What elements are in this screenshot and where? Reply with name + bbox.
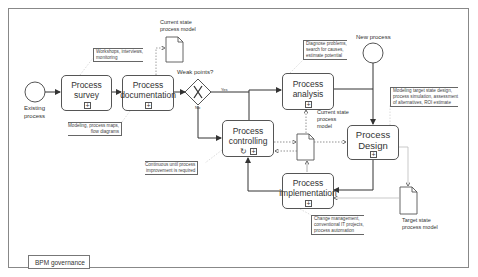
task-process-design[interactable]: Process Design + bbox=[347, 125, 399, 160]
task-label: Process implementation bbox=[279, 178, 337, 198]
document-target-state-icon[interactable] bbox=[400, 187, 417, 214]
annot-connector-survey bbox=[80, 58, 93, 75]
task-process-documentation[interactable]: Process documentation + bbox=[122, 75, 174, 111]
task-label: Process analysis bbox=[293, 79, 324, 99]
annot-connector-analysis bbox=[290, 60, 303, 73]
assoc-design-to-target-doc bbox=[399, 147, 408, 186]
start-event-label: Existing process bbox=[24, 104, 45, 120]
start-event-new-process[interactable] bbox=[363, 43, 383, 63]
pool-title-bpm-governance: BPM governance bbox=[28, 255, 90, 269]
start-event-existing-process[interactable] bbox=[25, 82, 45, 102]
subprocess-plus-icon[interactable]: + bbox=[145, 102, 152, 109]
annotation-design: Modeling target state design, process si… bbox=[390, 87, 458, 107]
annotation-implementation: Change management, conventional IT proje… bbox=[311, 215, 364, 235]
annot-connector-documentation bbox=[122, 111, 130, 122]
doc-target-state-label: Target state process model bbox=[402, 217, 438, 231]
task-process-controlling[interactable]: Process controlling ↻ + bbox=[222, 120, 274, 157]
annotation-controlling: Continuous until process improvement is … bbox=[145, 161, 198, 175]
doc-current-state-top-label: Current state process model bbox=[160, 19, 196, 33]
subprocess-plus-icon[interactable]: + bbox=[84, 102, 91, 109]
flow-implementation-to-controlling bbox=[248, 158, 282, 191]
subprocess-plus-icon[interactable]: + bbox=[305, 101, 312, 108]
assoc-documentation-to-doc-top bbox=[156, 48, 165, 75]
new-process-label: New process bbox=[356, 33, 391, 41]
task-label: Process survey bbox=[62, 80, 111, 100]
task-process-implementation[interactable]: Process implementation + bbox=[282, 173, 334, 209]
subprocess-plus-icon[interactable]: + bbox=[250, 148, 257, 155]
gateway-yes-label: Yes bbox=[221, 87, 228, 92]
annotation-survey: Workshops, interviews, monitoring bbox=[93, 48, 143, 62]
annotation-documentation: Modeling, process maps, flow diagrams bbox=[68, 122, 122, 136]
flow-gateway-no-to-controlling bbox=[198, 106, 221, 138]
annotation-analysis: Diagnose problems, search for causes, es… bbox=[303, 40, 347, 60]
subprocess-plus-icon[interactable]: + bbox=[370, 151, 377, 158]
doc-current-state-center-label: Current state process model bbox=[317, 109, 349, 130]
gateway-no-label: No bbox=[195, 105, 200, 110]
loop-marker-icon: ↻ bbox=[240, 147, 247, 156]
flow-design-to-implementation bbox=[334, 160, 373, 190]
document-current-state-top-icon[interactable] bbox=[166, 37, 183, 62]
task-label: Process controlling bbox=[229, 126, 268, 146]
annot-connector-implementation bbox=[300, 209, 311, 215]
task-process-analysis[interactable]: Process analysis + bbox=[282, 73, 334, 110]
subprocess-plus-icon[interactable]: + bbox=[305, 200, 312, 207]
document-current-state-center-icon[interactable] bbox=[297, 134, 314, 160]
task-label: Process Design bbox=[356, 129, 390, 151]
annot-connector-controlling bbox=[205, 150, 222, 163]
task-label: Process documentation bbox=[120, 80, 176, 100]
gateway-label: Weak points? bbox=[177, 68, 213, 76]
task-process-survey[interactable]: Process survey + bbox=[61, 75, 112, 111]
